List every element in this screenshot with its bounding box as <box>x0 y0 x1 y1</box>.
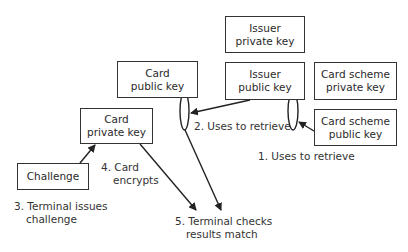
step-4-text-line1: 4. Card <box>101 161 159 174</box>
step-1-label: 1. Uses to retrieve <box>258 150 355 163</box>
box-label-line2: private key <box>236 35 295 48</box>
box-label-line1: Card scheme <box>321 115 390 128</box>
step-5-text-line2: results match <box>175 228 272 241</box>
box-label-line1: Card scheme <box>321 68 390 81</box>
step-1-text: 1. Uses to retrieve <box>258 150 355 162</box>
step-3-label: 3. Terminal issues challenge <box>14 200 108 226</box>
card-public-key-box: Card public key <box>117 61 198 98</box>
step-5-label: 5. Terminal checks results match <box>175 215 272 241</box>
step-5-text-line1: 5. Terminal checks <box>175 215 272 228</box>
box-label-line1: Challenge <box>27 170 80 183</box>
issuer-public-key-box: Issuer public key <box>225 62 305 100</box>
box-label-line1: Issuer <box>249 22 280 35</box>
challenge-box: Challenge <box>17 163 89 190</box>
box-label-line2: private key <box>326 81 385 94</box>
box-label-line1: Card <box>104 113 129 126</box>
step-3-text-line1: 3. Terminal issues <box>14 200 108 213</box>
box-label-line1: Issuer <box>249 68 280 81</box>
card-private-key-box: Card private key <box>80 108 153 144</box>
box-label-line1: Card <box>145 67 170 80</box>
arrow-scheme-to-ellipse <box>299 122 314 131</box>
box-label-line2: public key <box>131 80 184 93</box>
box-label-line2: private key <box>87 126 146 139</box>
card-scheme-private-key-box: Card scheme private key <box>314 62 397 100</box>
box-label-line2: public key <box>238 81 291 94</box>
step-2-text: 2. Uses to retrieve <box>194 120 291 132</box>
card-scheme-public-key-box: Card scheme public key <box>314 109 397 146</box>
box-label-line2: public key <box>329 128 382 141</box>
arrow-challenge-to-card-private-key <box>80 145 95 163</box>
step-3-text-line2: challenge <box>14 213 108 226</box>
step-4-text-line2: encrypts <box>101 174 159 187</box>
arrow-ellipse-to-check <box>185 130 221 210</box>
arrow-issuer-to-ellipse <box>191 100 250 113</box>
step-2-label: 2. Uses to retrieve <box>194 120 291 133</box>
step-4-label: 4. Card encrypts <box>101 161 159 187</box>
issuer-private-key-box: Issuer private key <box>225 16 305 53</box>
